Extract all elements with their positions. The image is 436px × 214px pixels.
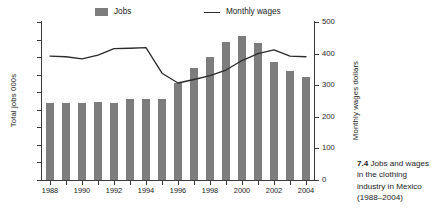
chart-legend: Jobs Monthly wages bbox=[95, 8, 310, 22]
left-tick-mark bbox=[37, 40, 41, 41]
right-axis-title: Monthly wages dollars bbox=[351, 56, 360, 146]
right-tick-label: 300 bbox=[322, 81, 335, 89]
right-tick-label: 500 bbox=[322, 18, 335, 26]
left-tick-mark bbox=[37, 110, 41, 111]
left-tick-mark bbox=[37, 92, 41, 93]
x-tick-mark bbox=[82, 181, 83, 185]
right-axis-line bbox=[314, 21, 315, 181]
x-tick-mark bbox=[66, 181, 67, 185]
x-tick-mark bbox=[210, 181, 211, 185]
bar-swatch-icon bbox=[95, 8, 108, 16]
left-axis-title: Total jobs 000s bbox=[9, 56, 18, 146]
left-tick-mark bbox=[37, 75, 41, 76]
x-tick-label: 2004 bbox=[292, 187, 320, 194]
figure-caption: 7.4 Jobs and wages in the clothing indus… bbox=[357, 158, 436, 204]
x-tick-mark bbox=[178, 181, 179, 185]
right-tick-label: 400 bbox=[322, 50, 335, 58]
line-swatch-icon bbox=[204, 12, 220, 13]
x-tick-mark bbox=[290, 181, 291, 185]
monthly-wages-polyline bbox=[50, 48, 306, 83]
chart-area: Jobs Monthly wages Total jobs 000s Month… bbox=[0, 0, 352, 214]
plot-region bbox=[42, 22, 314, 180]
x-tick-label: 1994 bbox=[132, 187, 160, 194]
right-tick-mark bbox=[315, 85, 319, 86]
right-tick-mark bbox=[315, 148, 319, 149]
x-tick-mark bbox=[130, 181, 131, 185]
figure-caption-text: Jobs and wages in the clothing industry … bbox=[357, 159, 429, 202]
x-tick-mark bbox=[194, 181, 195, 185]
x-tick-mark bbox=[274, 181, 275, 185]
x-tick-mark bbox=[226, 181, 227, 185]
left-tick-mark bbox=[37, 145, 41, 146]
legend-item-jobs: Jobs bbox=[95, 8, 131, 16]
left-tick-mark bbox=[37, 180, 41, 181]
x-tick-mark bbox=[50, 181, 51, 185]
right-tick-label: 100 bbox=[322, 144, 335, 152]
right-tick-mark bbox=[315, 117, 319, 118]
x-tick-mark bbox=[258, 181, 259, 185]
x-tick-label: 1996 bbox=[164, 187, 192, 194]
x-tick-label: 2002 bbox=[260, 187, 288, 194]
figure-jobs-and-wages-mexico: Jobs Monthly wages Total jobs 000s Month… bbox=[0, 0, 436, 214]
x-tick-mark bbox=[242, 181, 243, 185]
x-tick-label: 1988 bbox=[36, 187, 64, 194]
x-tick-label: 1998 bbox=[196, 187, 224, 194]
right-tick-label: 0 bbox=[322, 176, 326, 184]
right-tick-label: 200 bbox=[322, 113, 335, 121]
right-tick-mark bbox=[315, 54, 319, 55]
line-series-monthly-wages bbox=[42, 22, 314, 180]
legend-label-monthly-wages: Monthly wages bbox=[226, 8, 281, 16]
legend-label-jobs: Jobs bbox=[114, 8, 131, 16]
left-tick-mark bbox=[37, 162, 41, 163]
x-tick-mark bbox=[306, 181, 307, 185]
legend-item-monthly-wages: Monthly wages bbox=[204, 8, 281, 16]
x-tick-label: 2000 bbox=[228, 187, 256, 194]
left-tick-mark bbox=[37, 57, 41, 58]
left-tick-mark bbox=[37, 127, 41, 128]
left-tick-mark bbox=[37, 22, 41, 23]
figure-number: 7.4 bbox=[357, 159, 368, 168]
right-tick-mark bbox=[315, 180, 319, 181]
right-tick-mark bbox=[315, 22, 319, 23]
x-tick-label: 1990 bbox=[68, 187, 96, 194]
x-tick-mark bbox=[146, 181, 147, 185]
x-tick-label: 1992 bbox=[100, 187, 128, 194]
x-tick-mark bbox=[98, 181, 99, 185]
x-tick-mark bbox=[114, 181, 115, 185]
x-tick-mark bbox=[162, 181, 163, 185]
